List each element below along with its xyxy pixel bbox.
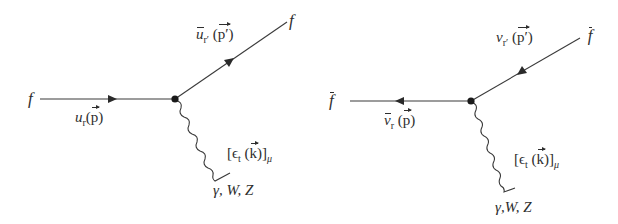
right-vertex-dot [467,97,474,104]
left-outgoing-spinor-label: ur′ (p′) [196,27,234,42]
spinor-symbol: v [496,29,503,45]
bracket-close: )] [257,145,267,161]
left-incoming-spinor-label: ur(p) [75,110,103,125]
momentum-vector: p [403,113,411,128]
polarization-index: t [525,159,528,170]
right-outgoing-arrow-icon [395,97,404,105]
right-incoming-arrow-icon [517,66,527,75]
right-incoming-particle-label: f [588,27,593,44]
momentum-vector: p′ [517,30,528,45]
momentum-vector: k [250,146,258,161]
paren-close: ) [528,29,533,45]
momentum-vector: k [537,152,545,167]
left-polarization-label: [ϵt (k)]μ [227,146,272,161]
spin-index: r [391,120,394,131]
lorentz-index: μ [554,159,559,170]
right-polarization-label: [ϵt (k)]μ [514,152,559,167]
right-incoming-antifermion-line [471,38,580,101]
spinor-symbol: u [75,109,83,125]
spinor-symbol: u [196,27,204,42]
spin-index: r [83,117,86,128]
paren-close: ) [410,112,415,128]
left-outgoing-particle-label: f [289,12,294,29]
bracket-close: )] [544,151,554,167]
left-outgoing-arrow-icon [224,58,234,67]
right-incoming-spinor-label: vr′ (p′) [496,30,533,45]
spin-index: r′ [503,37,509,48]
momentum-vector: p [91,110,99,125]
left-boson-name-label: γ, W, Z [213,183,253,198]
spin-index: r′ [204,34,210,45]
left-vertex-dot [171,95,178,102]
left-incoming-particle-label: f [28,90,33,107]
paren-close: ) [229,26,234,42]
spinor-symbol: v [384,113,391,128]
right-boson-wavy-line [471,102,515,192]
right-outgoing-spinor-label: vr (p) [384,113,415,128]
lorentz-index: μ [267,153,272,164]
right-boson-name-label: γ,W, Z [495,200,532,215]
momentum-vector: p′ [218,27,229,42]
left-incoming-arrow-icon [108,95,117,103]
right-outgoing-particle-label: f [329,92,334,109]
paren-close: ) [98,109,103,125]
left-boson-wavy-line [175,100,230,181]
polarization-index: t [238,153,241,164]
